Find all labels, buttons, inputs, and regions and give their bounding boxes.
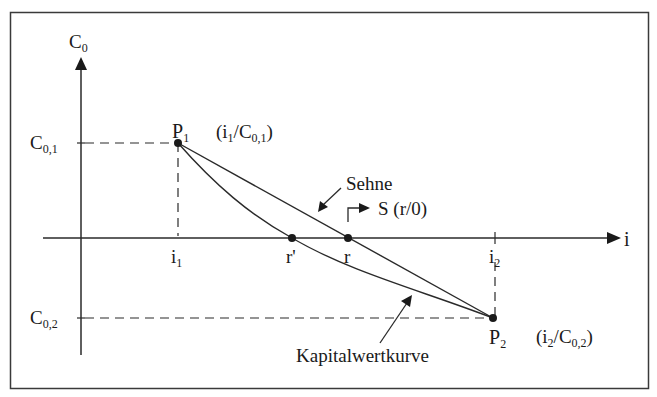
curve-label-text: Kapitalwertkurve — [296, 345, 429, 366]
point-p1-label-sub: 1 — [183, 131, 189, 145]
y-tick-c02-main: C — [30, 307, 43, 328]
p1-coords-pre: (i — [216, 121, 228, 142]
x-tick-i2: i2 — [489, 247, 500, 266]
point-p1-label: P1 — [172, 121, 189, 141]
point-p2-coords: (i2/C0,2) — [536, 327, 593, 346]
x-axis-label: i — [624, 229, 630, 249]
y-axis-label-sub: 0 — [82, 41, 88, 55]
x-tick-r-main: r — [344, 246, 350, 267]
x-axis-label-text: i — [624, 228, 630, 250]
p2-coords-mid: /C — [554, 326, 572, 347]
point-p1-coords: (i1/C0,1) — [216, 122, 273, 141]
p1-coords-mid: /C — [234, 121, 252, 142]
chord-line — [178, 143, 493, 318]
x-tick-i1-sub: 1 — [176, 256, 182, 270]
x-tick-r: r — [344, 247, 350, 266]
y-tick-c02-sub: 0,2 — [43, 317, 58, 331]
chord-pointer-arrow-icon — [318, 201, 328, 212]
y-axis-arrow-icon — [75, 57, 87, 70]
curve-pointer-arrow-icon — [401, 295, 412, 307]
y-tick-c01-sub: 0,1 — [43, 142, 58, 156]
point-p2-label-sub: 2 — [500, 337, 506, 351]
x-tick-r-prime: r' — [286, 247, 296, 266]
point-s-label: S (r/0) — [378, 199, 427, 218]
chord-pointer-line — [323, 188, 341, 205]
p1-coords-sub2: 0,1 — [252, 131, 267, 145]
y-axis-label-main: C — [69, 31, 82, 52]
p2-coords-pre: (i — [536, 326, 548, 347]
x-tick-r-prime-main: r' — [286, 246, 296, 267]
chord-label: Sehne — [346, 174, 392, 193]
point-r-prime — [288, 234, 296, 242]
chord-label-text: Sehne — [346, 173, 392, 194]
curve-label: Kapitalwertkurve — [296, 346, 429, 365]
curve-pointer-line — [380, 303, 407, 343]
s-pointer-arrow-icon — [359, 203, 370, 213]
p2-coords-sub2: 0,2 — [572, 336, 587, 350]
point-s-label-text: S (r/0) — [378, 198, 427, 219]
y-tick-c01: C0,1 — [30, 133, 58, 152]
x-tick-i2-sub: 2 — [494, 256, 500, 270]
point-p1-label-main: P — [172, 120, 183, 142]
x-axis-arrow-icon — [607, 232, 621, 244]
point-p2-label-main: P — [489, 326, 500, 348]
y-axis-label: C0 — [69, 32, 88, 51]
diagram-figure: C0 i C0,1 C0,2 i1 r' r i2 P1 (i1/C0,1) P… — [0, 0, 657, 397]
point-p2-label: P2 — [489, 327, 506, 347]
y-tick-c01-main: C — [30, 132, 43, 153]
s-pointer-line — [348, 208, 360, 222]
x-tick-i1: i1 — [171, 247, 182, 266]
point-r — [344, 234, 352, 242]
point-p2 — [489, 314, 497, 322]
p1-coords-post: ) — [267, 121, 273, 142]
y-tick-c02: C0,2 — [30, 308, 58, 327]
p2-coords-post: ) — [587, 326, 593, 347]
